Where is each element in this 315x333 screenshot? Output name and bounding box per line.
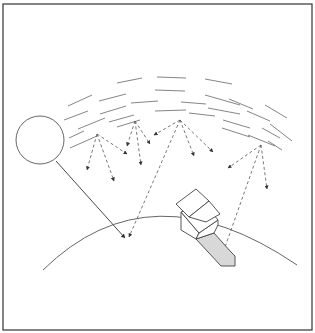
frame-border [3, 4, 312, 330]
earth-ground-curve [43, 216, 297, 270]
diffuse-rays [87, 120, 267, 250]
shadow-region [196, 233, 235, 266]
sun-icon [16, 116, 64, 164]
diffuse-radiation-diagram [0, 0, 315, 333]
direct-beam-arrow [56, 161, 125, 238]
atmosphere-arcs [64, 77, 292, 150]
